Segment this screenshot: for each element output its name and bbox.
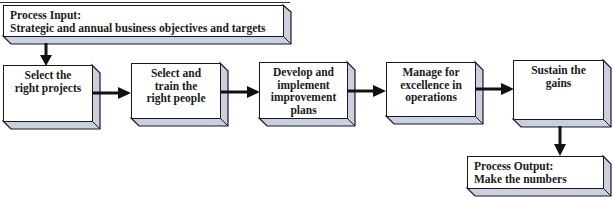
output-description: Make the numbers: [474, 173, 603, 186]
arrow-right-icon: [475, 82, 515, 96]
step-label-line: train the: [132, 80, 220, 93]
step-label-line: Select the: [4, 69, 92, 82]
step-label-line: right people: [132, 92, 220, 105]
arrow-down-icon: [553, 126, 567, 157]
step-label-line: right projects: [4, 82, 92, 95]
input-description: Strategic and annual business objectives…: [10, 22, 283, 35]
arrow-right-icon: [92, 86, 132, 100]
step-label-line: Develop and: [260, 66, 347, 79]
arrow-down-icon: [39, 43, 53, 67]
step-label-line: improvement: [260, 91, 347, 104]
step-develop-improvement-plans: Develop and implement improvement plans: [259, 62, 355, 126]
step-select-projects: Select the right projects: [3, 65, 100, 129]
step-sustain-gains: Sustain the gains: [513, 60, 611, 127]
step-label-line: Select and: [132, 67, 220, 80]
input-title: Process Input:: [10, 9, 283, 22]
step-manage-operations: Manage for excellence in operations: [386, 62, 483, 124]
step-label-line: plans: [260, 104, 347, 117]
arrow-right-icon: [221, 85, 261, 99]
step-label-line: excellence in: [387, 79, 475, 92]
step-label-line: implement: [260, 79, 347, 92]
step-label-line: Sustain the: [514, 64, 603, 77]
cropped-top-edge: [0, 0, 290, 3]
step-label-line: Manage for: [387, 66, 475, 79]
step-select-train-people: Select and train the right people: [131, 63, 228, 126]
step-label-line: gains: [514, 77, 603, 90]
output-title: Process Output:: [474, 160, 603, 173]
step-label-line: operations: [387, 91, 475, 104]
process-input-box: Process Input: Strategic and annual busi…: [3, 5, 291, 44]
arrow-right-icon: [347, 84, 387, 98]
process-output-box: Process Output: Make the numbers: [467, 156, 611, 196]
